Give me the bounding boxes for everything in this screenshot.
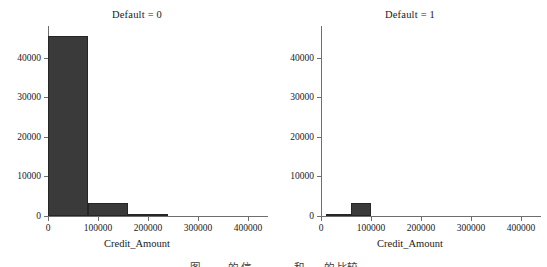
x-axis-tick (471, 217, 472, 221)
histogram-figure: Default = 0 0100002000030000400000100000… (0, 0, 547, 267)
panel-default-1: Default = 1 0100002000030000400000100000… (273, 0, 547, 267)
x-axis-tick (321, 217, 322, 221)
x-axis-tick (421, 217, 422, 221)
panel-title-default-1: Default = 1 (273, 9, 547, 20)
x-axis-tick (98, 217, 99, 221)
x-axis-tick-label: 0 (319, 223, 324, 233)
histogram-bar (326, 214, 351, 216)
x-axis-tick (198, 217, 199, 221)
x-axis-label-default-0: Credit_Amount (0, 238, 274, 249)
figure-caption-text: 图 。 。 的 信 。。。 。。 和 。。 的 比较 (0, 259, 547, 267)
y-axis-tick-label: 0 (309, 211, 314, 221)
x-axis-tick-label: 100000 (357, 223, 386, 233)
y-axis-tick-label: 10000 (290, 171, 314, 181)
y-axis-tick (317, 97, 321, 98)
y-axis-tick-label: 30000 (290, 92, 314, 102)
panel-title-default-0: Default = 0 (0, 9, 274, 20)
histogram-bar (351, 203, 371, 216)
histogram-bar (128, 214, 168, 216)
x-axis-tick-label: 0 (46, 223, 51, 233)
y-axis-tick (317, 58, 321, 59)
x-axis-line (48, 216, 268, 217)
x-axis-tick-label: 300000 (184, 223, 213, 233)
plot-area-default-1: 0100002000030000400000100000200000300000… (321, 26, 541, 216)
x-axis-tick-label: 400000 (234, 223, 263, 233)
plot-area-default-0: 0100002000030000400000100000200000300000… (48, 26, 268, 216)
y-axis-tick-label: 0 (36, 211, 41, 221)
figure-caption-clipped: 图 。 。 的 信 。。。 。。 和 。。 的 比较 (0, 259, 547, 267)
y-axis-tick-label: 20000 (17, 132, 41, 142)
histogram-bar (88, 203, 128, 216)
y-axis-tick-label: 20000 (290, 132, 314, 142)
x-axis-tick (521, 217, 522, 221)
x-axis-line (321, 216, 541, 217)
x-axis-tick-label: 100000 (84, 223, 113, 233)
y-axis-tick (317, 176, 321, 177)
histogram-bar (48, 36, 88, 216)
x-axis-tick (248, 217, 249, 221)
x-axis-tick-label: 200000 (134, 223, 163, 233)
x-axis-tick-label: 300000 (457, 223, 486, 233)
y-axis-tick (317, 137, 321, 138)
x-axis-label-default-1: Credit_Amount (273, 238, 547, 249)
y-axis-tick-label: 40000 (290, 53, 314, 63)
x-axis-tick-label: 400000 (507, 223, 536, 233)
panel-default-0: Default = 0 0100002000030000400000100000… (0, 0, 274, 267)
x-axis-tick-label: 200000 (407, 223, 436, 233)
x-axis-tick (371, 217, 372, 221)
y-axis-tick-label: 10000 (17, 171, 41, 181)
y-axis-line (321, 26, 322, 216)
y-axis-tick-label: 30000 (17, 92, 41, 102)
x-axis-tick (48, 217, 49, 221)
y-axis-tick-label: 40000 (17, 53, 41, 63)
x-axis-tick (148, 217, 149, 221)
